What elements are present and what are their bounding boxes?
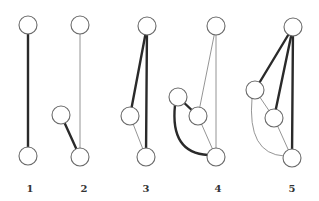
graph-label: 1 [27, 183, 34, 194]
graph-label: 2 [81, 183, 88, 194]
graph-3-node-2 [137, 148, 155, 166]
graph-label: 5 [289, 183, 296, 194]
graph-3-edge-0-1 [130, 26, 147, 116]
graph-5-node-2 [265, 109, 283, 127]
graph-1-node-0 [19, 16, 37, 34]
graph-3-edges [130, 26, 147, 157]
graph-4-edge-0-2 [198, 26, 216, 116]
graph-2-node-1 [52, 106, 70, 124]
graph-3-node-0 [138, 17, 156, 35]
graph-4-node-0 [207, 17, 225, 35]
graph-3-node-1 [121, 107, 139, 125]
graph-1-node-1 [19, 147, 37, 165]
graph-label: 3 [143, 183, 150, 194]
graph-4-node-2 [189, 107, 207, 125]
graph-sequence-diagram: 12345 [0, 0, 319, 201]
graph-2-edges [61, 25, 80, 157]
graph-2-node-0 [71, 16, 89, 34]
graph-3-nodes [121, 17, 156, 166]
graph-4-node-3 [207, 148, 225, 166]
graph-3-edge-0-2 [146, 26, 147, 157]
graph-5-edge-1-3 [251, 98, 284, 156]
graph-5-node-1 [246, 81, 264, 99]
graph-label: 4 [215, 183, 222, 194]
graph-5-edge-0-3 [292, 27, 293, 158]
graph-2-node-2 [71, 148, 89, 166]
graph-4-nodes [169, 17, 225, 166]
labels-layer: 12345 [27, 183, 296, 194]
graph-5-node-3 [283, 149, 301, 167]
graph-5-node-0 [284, 18, 302, 36]
graph-4-node-1 [169, 88, 187, 106]
graph-2-nodes [52, 16, 89, 166]
